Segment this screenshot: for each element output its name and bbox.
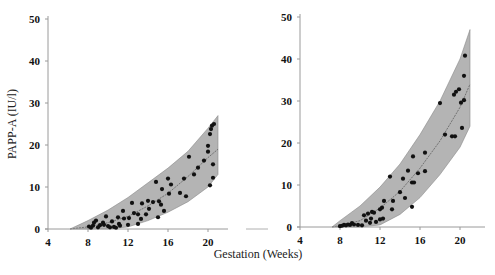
data-point xyxy=(360,223,364,227)
data-point xyxy=(412,180,416,184)
data-point xyxy=(206,144,210,148)
x-tick-label: 20 xyxy=(203,236,215,248)
x-axis-title: Gestation (Weeks) xyxy=(214,247,303,261)
data-point xyxy=(369,217,373,221)
data-point xyxy=(391,199,395,203)
data-point xyxy=(139,217,143,221)
data-point xyxy=(374,220,378,224)
data-point xyxy=(202,158,206,162)
right-panel: 0102030405048121620 xyxy=(281,11,485,246)
y-tick-label: 30 xyxy=(281,95,293,107)
data-point xyxy=(457,87,461,91)
data-point xyxy=(352,222,356,226)
data-point xyxy=(104,214,108,218)
data-point xyxy=(438,101,442,105)
left-panel: 0102030405048121620 xyxy=(29,13,268,248)
data-point xyxy=(411,154,415,158)
data-point xyxy=(388,175,392,179)
x-tick-label: 20 xyxy=(455,234,467,246)
data-point xyxy=(368,221,372,225)
data-point xyxy=(416,171,420,175)
data-point xyxy=(136,212,140,216)
y-tick-label: 40 xyxy=(29,55,41,67)
data-point xyxy=(453,134,457,138)
data-point xyxy=(210,124,214,128)
data-point xyxy=(364,219,368,223)
data-point xyxy=(208,183,212,187)
data-point xyxy=(116,215,120,219)
data-point xyxy=(118,224,122,228)
data-point xyxy=(462,98,466,102)
data-point xyxy=(184,194,188,198)
data-point xyxy=(401,177,405,181)
data-point xyxy=(147,207,151,211)
data-point xyxy=(132,211,136,215)
x-tick-label: 12 xyxy=(375,234,387,246)
data-point xyxy=(122,216,126,220)
data-point xyxy=(410,205,414,209)
data-point xyxy=(94,219,98,223)
data-point xyxy=(178,191,182,195)
data-point xyxy=(366,211,370,215)
data-point xyxy=(462,74,466,78)
data-point xyxy=(108,225,112,229)
data-point xyxy=(211,162,215,166)
data-point xyxy=(443,133,447,137)
data-point xyxy=(403,196,407,200)
y-tick-label: 50 xyxy=(29,13,41,25)
y-tick-label: 40 xyxy=(281,53,293,65)
data-point xyxy=(182,177,186,181)
data-point xyxy=(169,182,173,186)
data-point xyxy=(154,180,158,184)
data-point xyxy=(406,169,410,173)
y-tick-label: 10 xyxy=(281,179,293,191)
data-point xyxy=(144,212,148,216)
data-point xyxy=(380,206,384,210)
data-point xyxy=(146,199,150,203)
data-point xyxy=(196,166,200,170)
data-point xyxy=(423,169,427,173)
data-point xyxy=(423,151,427,155)
data-point xyxy=(167,192,171,196)
data-point xyxy=(156,215,160,219)
x-tick-label: 16 xyxy=(163,236,175,248)
y-tick-label: 20 xyxy=(281,137,293,149)
data-point xyxy=(398,190,402,194)
data-point xyxy=(381,217,385,221)
data-point xyxy=(208,132,212,136)
data-point xyxy=(114,226,118,230)
data-point xyxy=(159,203,163,207)
data-point xyxy=(121,209,125,213)
data-point xyxy=(372,211,376,215)
data-point xyxy=(127,216,131,220)
y-tick-label: 10 xyxy=(29,181,41,193)
y-tick-label: 0 xyxy=(287,221,293,233)
x-tick-label: 4 xyxy=(297,234,303,246)
y-tick-label: 20 xyxy=(29,139,41,151)
reference-band xyxy=(332,30,470,227)
data-point xyxy=(166,177,170,181)
data-point xyxy=(140,201,144,205)
data-point xyxy=(460,126,464,130)
y-tick-label: 50 xyxy=(281,11,293,23)
x-tick-label: 8 xyxy=(85,236,91,248)
data-point xyxy=(390,207,394,211)
x-tick-label: 12 xyxy=(123,236,135,248)
figure: 0102030405048121620 0102030405048121620 … xyxy=(0,0,495,275)
data-point xyxy=(211,176,215,180)
data-point xyxy=(126,223,130,227)
x-tick-label: 16 xyxy=(415,234,427,246)
data-point xyxy=(102,223,106,227)
data-point xyxy=(187,155,191,159)
data-point xyxy=(136,222,140,226)
reference-band xyxy=(70,116,218,229)
data-point xyxy=(356,223,360,227)
data-point xyxy=(151,200,155,204)
data-point xyxy=(162,209,166,213)
x-tick-label: 4 xyxy=(45,236,51,248)
y-tick-label: 30 xyxy=(29,97,41,109)
data-point xyxy=(206,150,210,154)
data-point xyxy=(192,172,196,176)
data-point xyxy=(382,199,386,203)
y-axis-title: PAPP-A (IU/l) xyxy=(5,89,19,159)
